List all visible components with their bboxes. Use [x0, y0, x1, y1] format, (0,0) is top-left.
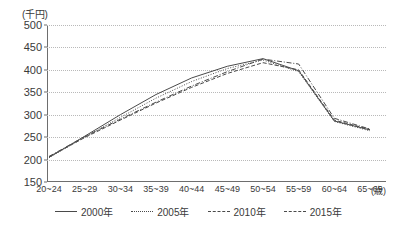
series-line	[49, 59, 370, 158]
x-tick-label: 20~24	[36, 184, 61, 194]
y-tick-label: 200	[24, 154, 42, 166]
x-tick-label: 35~39	[143, 184, 168, 194]
plot-area: 500450400350300250200150	[47, 25, 386, 182]
y-tick-label: 400	[24, 64, 42, 76]
x-tick-label: 25~29	[72, 184, 97, 194]
series-line	[49, 63, 370, 157]
legend-item[interactable]: 2010年	[208, 204, 266, 219]
x-tick-label: 55~59	[286, 184, 311, 194]
x-tick-label: 45~49	[215, 184, 240, 194]
x-axis-unit-label: (歳)	[371, 184, 386, 197]
x-tick-label: 60~64	[322, 184, 347, 194]
legend-label: 2005年	[157, 204, 189, 219]
chart-legend: 2000年2005年2010年2015年	[0, 204, 397, 219]
x-tick-label: 40~44	[179, 184, 204, 194]
y-tick-label: 250	[24, 131, 42, 143]
legend-item[interactable]: 2015年	[284, 204, 342, 219]
series-lines	[47, 25, 386, 182]
legend-item[interactable]: 2000年	[55, 204, 113, 219]
x-axis-ticks: 20~2425~2930~3435~3940~4445~4950~5455~59…	[47, 184, 386, 198]
legend-label: 2000年	[81, 204, 113, 219]
y-tick-label: 500	[24, 19, 42, 31]
line-chart: (千円) 500450400350300250200150 20~2425~29…	[0, 0, 397, 228]
series-line	[49, 59, 370, 156]
legend-label: 2015年	[310, 204, 342, 219]
y-tick-label: 350	[24, 86, 42, 98]
series-line	[49, 60, 370, 158]
legend-swatch-icon	[208, 211, 230, 212]
x-tick-label: 30~34	[108, 184, 133, 194]
y-tick-label: 450	[24, 41, 42, 53]
y-tick-label: 300	[24, 109, 42, 121]
x-tick-label: 50~54	[250, 184, 275, 194]
legend-swatch-icon	[284, 211, 306, 212]
legend-swatch-icon	[131, 211, 153, 212]
legend-item[interactable]: 2005年	[131, 204, 189, 219]
legend-swatch-icon	[55, 211, 77, 212]
legend-label: 2010年	[234, 204, 266, 219]
